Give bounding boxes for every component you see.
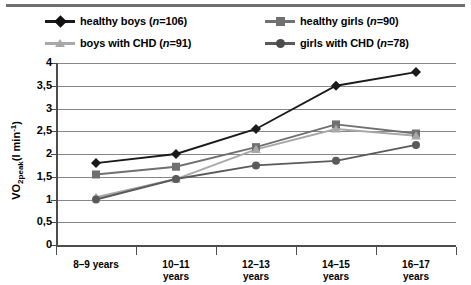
legend-key-square-icon (265, 15, 295, 27)
legend-key-diamond-icon (45, 15, 75, 27)
data-point-circle (332, 157, 340, 165)
y-tick-label: 2,5 (12, 124, 52, 136)
x-tick (456, 247, 457, 255)
legend-label-boys-chd: boys with CHD (n=91) (80, 37, 191, 49)
data-point-circle (172, 175, 180, 183)
x-tick (56, 247, 57, 255)
legend-item-healthy-boys: healthy boys (n=106) (45, 14, 187, 28)
legend-item-boys-chd: boys with CHD (n=91) (45, 36, 191, 50)
chart-figure: healthy boys (n=106) healthy girls (n=90… (0, 0, 471, 285)
series-line (96, 145, 416, 200)
data-point-diamond (171, 149, 181, 159)
x-axis-label: 10–11years (133, 259, 219, 283)
y-tick-label: 3,5 (12, 79, 52, 91)
data-point-diamond (91, 158, 101, 168)
x-tick (136, 247, 137, 255)
y-tick-label: 1 (12, 193, 52, 205)
x-axis-label: 12–13years (213, 259, 299, 283)
legend-item-healthy-girls: healthy girls (n=90) (265, 14, 399, 28)
legend-key-circle-icon (265, 37, 295, 49)
y-tick-label: 4 (12, 56, 52, 68)
plot-area-wrapper: VO2peak(l min-1) 00,511,522,533,54 8–9 y… (0, 56, 471, 285)
figure-top-rule (6, 4, 465, 7)
data-point-circle (252, 161, 260, 169)
data-point-circle (92, 196, 100, 204)
x-axis-label: 8–9 years (53, 259, 139, 271)
legend-label-healthy-girls: healthy girls (n=90) (300, 15, 399, 27)
plot-area: 00,511,522,533,54 8–9 years10–11years12–… (56, 63, 456, 247)
legend-key-triangle-icon (45, 37, 75, 49)
x-axis-label: 14–15years (293, 259, 379, 283)
y-tick-label: 1,5 (12, 170, 52, 182)
x-tick (216, 247, 217, 255)
x-tick (376, 247, 377, 255)
y-tick-label: 3 (12, 102, 52, 114)
y-tick-label: 0 (12, 238, 52, 250)
data-point-diamond (251, 124, 261, 134)
x-tick (296, 247, 297, 255)
legend-label-healthy-boys: healthy boys (n=106) (80, 15, 187, 27)
data-point-square (92, 170, 100, 178)
legend-item-girls-chd: girls with CHD (n=78) (265, 36, 409, 50)
data-point-square (172, 163, 180, 171)
data-point-diamond (411, 67, 421, 77)
x-axis-label: 16–17years (373, 259, 459, 283)
y-tick-label: 0,5 (12, 215, 52, 227)
y-tick-label: 2 (12, 147, 52, 159)
legend-label-girls-chd: girls with CHD (n=78) (300, 37, 409, 49)
data-series-layer (56, 63, 456, 247)
chart-legend: healthy boys (n=106) healthy girls (n=90… (0, 12, 471, 54)
data-point-circle (412, 141, 420, 149)
data-point-diamond (331, 81, 341, 91)
